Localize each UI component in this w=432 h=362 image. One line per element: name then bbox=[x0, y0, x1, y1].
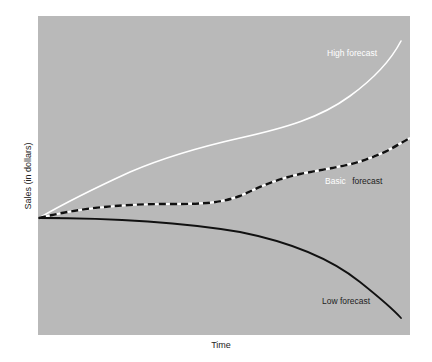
x-axis-label: Time bbox=[211, 340, 231, 350]
basic-forecast-label-word1: Basic bbox=[325, 176, 347, 186]
high-forecast-label: High forecast bbox=[327, 48, 378, 58]
basic-forecast-label-word2: forecast bbox=[352, 176, 383, 186]
low-forecast-label: Low forecast bbox=[322, 296, 371, 306]
basic-forecast-label: Basic forecast bbox=[325, 176, 383, 186]
sales-forecast-chart: High forecast Basic forecast Low forecas… bbox=[0, 0, 432, 362]
y-axis-label: Sales (in dollars) bbox=[23, 142, 33, 209]
